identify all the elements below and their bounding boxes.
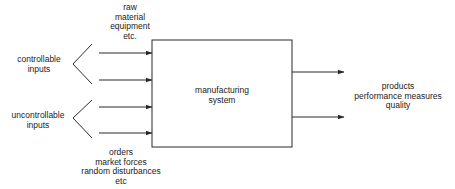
controllable-label-line2: inputs [10, 65, 68, 75]
system-label-line2: system [182, 96, 262, 106]
example-etc: etc [78, 177, 164, 187]
controllable-brace [73, 44, 92, 84]
uncontrollable-examples: orders market forces random disturbances… [78, 148, 164, 186]
outputs-label: products performance measures quality [348, 82, 448, 111]
uncontrollable-label-line2: inputs [6, 121, 70, 131]
uncontrollable-brace [73, 100, 92, 138]
manufacturing-system-diagram: raw material equipment etc. controllable… [0, 0, 455, 189]
controllable-examples: raw material equipment etc. [100, 3, 160, 41]
example-etc: etc. [100, 32, 160, 42]
uncontrollable-inputs-label: uncontrollable inputs [6, 111, 70, 130]
system-label: manufacturing system [182, 86, 262, 105]
controllable-inputs-label: controllable inputs [10, 55, 68, 74]
output-quality: quality [348, 101, 448, 111]
